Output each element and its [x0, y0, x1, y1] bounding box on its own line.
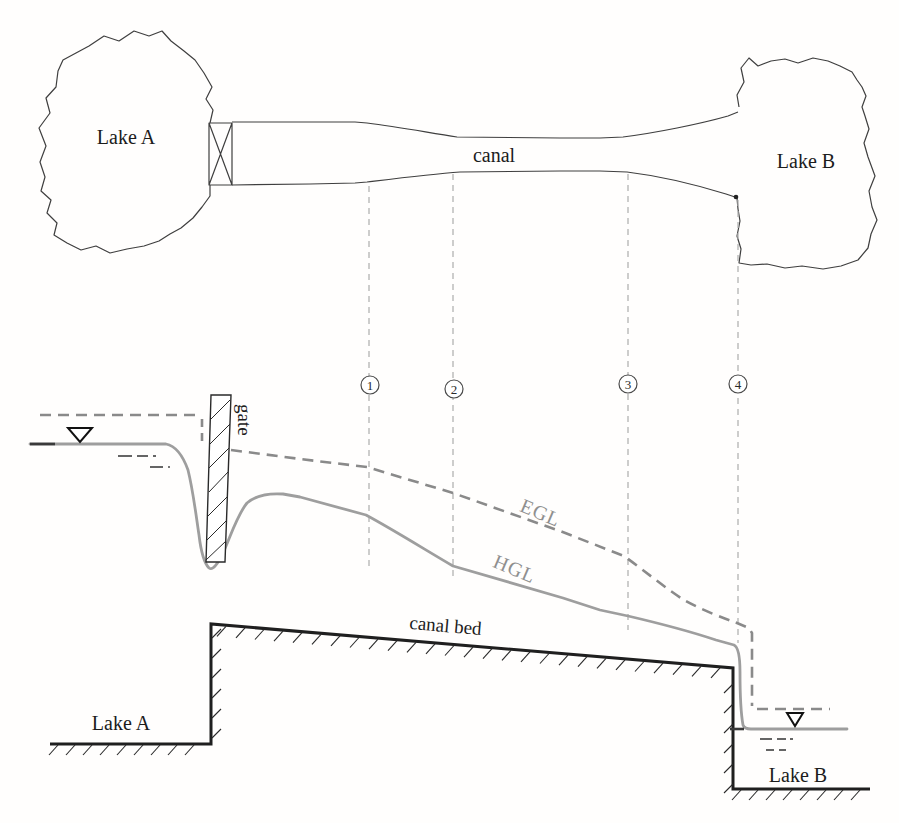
plan-view: Lake A canal Lake B — [39, 31, 877, 269]
hatch-tick-icon — [692, 666, 701, 676]
hatch-tick-icon — [766, 790, 775, 800]
canal-bottom-edge — [232, 171, 735, 197]
gate-label: gate — [234, 404, 255, 436]
hatch-tick-icon — [502, 650, 511, 660]
hatch-tick-icon — [293, 633, 302, 643]
hgl-label: HGL — [490, 550, 539, 587]
hatch-tick-icon — [654, 663, 663, 673]
hatch-tick-icon — [212, 729, 221, 738]
hatch-tick-icon — [255, 630, 264, 640]
hatch-tick-icon — [817, 790, 826, 800]
hydraulics-figure-page: Lake A canal Lake B 1 2 3 4 — [0, 0, 899, 823]
hatch-tick-icon — [616, 660, 625, 670]
hatch-tick-icon — [212, 689, 221, 698]
hatch-tick-icon — [800, 790, 809, 800]
station-2-number: 2 — [451, 382, 458, 397]
station-3-marker: 3 — [619, 375, 637, 393]
profile-view: gate EGL HGL canal — [30, 395, 870, 800]
hatch-tick-icon — [407, 642, 416, 652]
hatch-tick-icon — [673, 665, 682, 675]
hatch-tick-icon — [369, 639, 378, 649]
hatch-tick-icon — [100, 745, 109, 755]
hgl-line — [30, 444, 847, 729]
hydraulics-figure: Lake A canal Lake B 1 2 3 4 — [0, 0, 899, 823]
station-3-number: 3 — [625, 377, 632, 392]
hatch-tick-icon — [521, 652, 530, 662]
canal-bed-line — [50, 624, 870, 789]
hatch-tick-icon — [426, 644, 435, 654]
hatch-tick-icon — [212, 649, 221, 658]
hatch-tick-icon — [483, 649, 492, 659]
station-4-number: 4 — [735, 377, 742, 392]
water-shading — [118, 456, 170, 467]
canal-outlet-dot — [734, 195, 739, 200]
canal-top-edge — [232, 112, 738, 138]
water-surface-icon — [68, 428, 92, 442]
egl-label: EGL — [517, 494, 564, 531]
plan-gate-icon — [209, 123, 232, 185]
hatch-tick-icon — [134, 745, 143, 755]
plan-lake-b-label: Lake B — [777, 150, 835, 172]
hatch-tick-icon — [151, 745, 160, 755]
hatch-tick-icon — [66, 745, 75, 755]
station-4-marker: 4 — [729, 375, 747, 393]
hatch-tick-icon — [212, 669, 221, 678]
hatch-tick-icon — [236, 628, 245, 638]
water-shading — [760, 739, 793, 750]
hatch-tick-icon — [185, 745, 194, 755]
station-lines: 1 2 3 4 — [361, 174, 747, 643]
hatch-tick-icon — [117, 745, 126, 755]
hatch-tick-icon — [851, 790, 860, 800]
hatch-tick-icon — [350, 638, 359, 648]
lake-a-water-surface-marker — [68, 428, 170, 467]
water-surface-icon — [787, 713, 803, 726]
hatch-tick-icon — [331, 636, 340, 646]
hatch-tick-icon — [559, 655, 568, 665]
station-1-number: 1 — [367, 378, 374, 393]
hatch-tick-icon — [711, 668, 720, 678]
hatch-tick-icon — [388, 641, 397, 651]
hatch-tick-icon — [168, 745, 177, 755]
hatch-tick-icon — [597, 658, 606, 668]
hatch-tick-icon — [732, 790, 741, 800]
plan-canal-label: canal — [473, 144, 516, 166]
hatch-tick-icon — [83, 745, 92, 755]
hatch-tick-icon — [749, 790, 758, 800]
lake-b-water-surface-marker — [760, 713, 803, 750]
hatch-tick-icon — [635, 662, 644, 672]
hatch-tick-icon — [540, 654, 549, 664]
hatch-tick-icon — [274, 631, 283, 641]
hatch-tick-icon — [783, 790, 792, 800]
hatch-tick-icon — [49, 745, 58, 755]
hatch-tick-icon — [464, 647, 473, 657]
profile-lake-b-label: Lake B — [769, 764, 827, 786]
hatch-tick-icon — [212, 709, 221, 718]
plan-lake-a-label: Lake A — [97, 126, 156, 148]
hatch-tick-icon — [834, 790, 843, 800]
hatch-tick-icon — [312, 634, 321, 644]
profile-lake-a-label: Lake A — [92, 712, 151, 734]
station-1-marker: 1 — [361, 376, 379, 394]
station-2-marker: 2 — [445, 380, 463, 398]
hatch-tick-icon — [578, 657, 587, 667]
hatch-tick-icon — [445, 646, 454, 656]
canal-bed-label: canal bed — [409, 612, 483, 639]
